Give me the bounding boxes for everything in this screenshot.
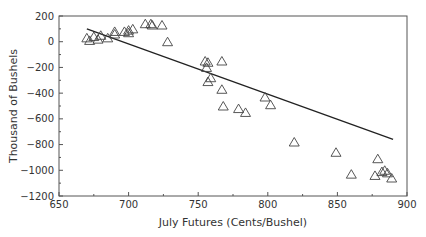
regression-line — [87, 29, 393, 140]
triangle-marker-icon — [346, 170, 356, 179]
plot-border — [59, 16, 407, 196]
y-tick-label: −800 — [27, 139, 54, 150]
y-tick-label: −600 — [27, 113, 54, 124]
fit-line — [87, 29, 393, 140]
x-axis-ticks: 650700750800850900 — [49, 192, 416, 210]
x-tick-label: 750 — [189, 199, 208, 210]
scatter-chart: 650700750800850900 2000−200−400−600−800−… — [0, 0, 426, 237]
y-tick-label: 200 — [35, 11, 54, 22]
triangle-marker-icon — [200, 57, 210, 66]
triangle-marker-icon — [218, 102, 228, 111]
y-tick-label: 0 — [48, 36, 54, 47]
triangle-marker-icon — [217, 85, 227, 94]
triangle-marker-icon — [331, 148, 341, 157]
x-tick-label: 900 — [397, 199, 416, 210]
x-tick-label: 700 — [119, 199, 138, 210]
x-tick-label: 850 — [328, 199, 347, 210]
y-tick-label: −400 — [27, 88, 54, 99]
plot-frame — [59, 16, 407, 196]
triangle-marker-icon — [110, 27, 120, 35]
x-axis-label: July Futures (Cents/Bushel) — [158, 216, 307, 229]
y-tick-label: −1200 — [20, 191, 54, 202]
triangle-marker-icon — [373, 154, 383, 163]
x-tick-label: 800 — [258, 199, 277, 210]
y-tick-label: −200 — [27, 62, 54, 73]
triangle-marker-icon — [157, 21, 167, 30]
triangle-marker-icon — [289, 138, 299, 147]
y-tick-label: −1000 — [20, 165, 54, 176]
y-axis-ticks: 2000−200−400−600−800−1000−1200 — [20, 11, 63, 202]
triangle-marker-icon — [217, 57, 227, 66]
triangle-marker-icon — [234, 104, 244, 113]
y-axis-label: Thousand of Bushels — [7, 49, 20, 164]
triangle-marker-icon — [266, 100, 276, 109]
triangle-marker-icon — [163, 37, 173, 46]
